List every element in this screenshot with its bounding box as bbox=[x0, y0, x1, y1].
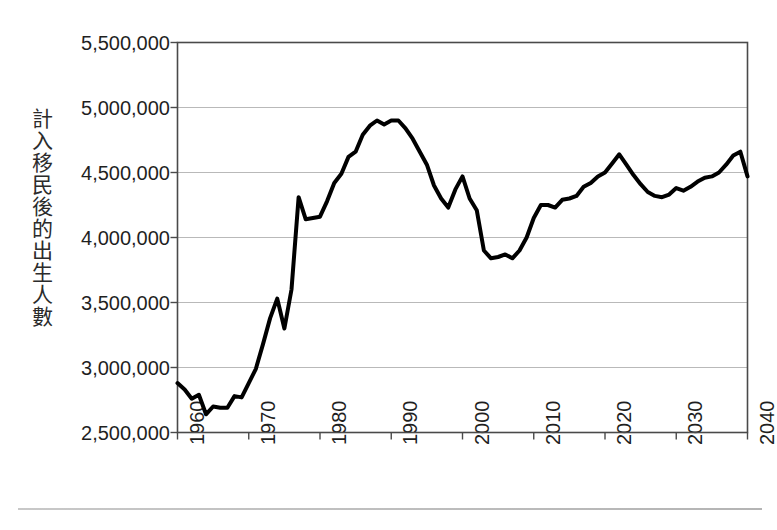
bottom-divider bbox=[18, 508, 762, 510]
plot-area bbox=[0, 0, 777, 530]
data-series-group bbox=[178, 121, 748, 415]
x-axis-tick-marks bbox=[178, 433, 748, 440]
chart-figure: 計入移民後的出生人數 5,500,0005,000,0004,500,0004,… bbox=[0, 0, 777, 530]
data-line bbox=[178, 121, 748, 415]
gridlines bbox=[178, 108, 748, 368]
y-axis-tick-marks bbox=[171, 43, 178, 433]
